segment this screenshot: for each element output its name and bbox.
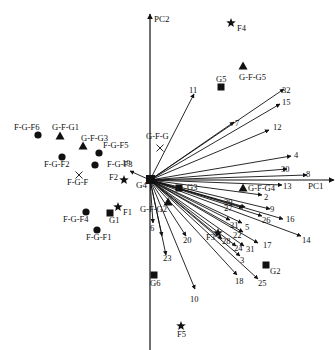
vector-label: 16 <box>286 214 295 224</box>
star-marker-icon <box>119 175 129 184</box>
sample-point: G-F-G2 <box>140 198 173 215</box>
circle-marker-icon <box>95 149 102 156</box>
sample-point: F-G-F3 <box>91 159 132 169</box>
point-label: F4 <box>237 23 247 33</box>
triangle-marker-icon <box>56 132 65 140</box>
sample-point: F-G-F <box>67 172 89 188</box>
sample-point: G-F-G1 <box>52 122 79 140</box>
sample-point: G-F-G5 <box>239 62 266 83</box>
sample-point: G6 <box>150 272 160 289</box>
point-label: F1 <box>123 207 132 217</box>
sample-point: F-G-F2 <box>44 153 70 169</box>
vector-label: 15 <box>282 97 291 107</box>
vector-label: 2 <box>264 192 268 202</box>
point-label: G6 <box>150 278 160 288</box>
vector-label: 6 <box>150 223 154 233</box>
pca-biplot: PC1PC2G4 3215712430813291626142927215221… <box>0 0 335 350</box>
vector-label: 8 <box>306 169 310 179</box>
point-label: F2 <box>109 172 118 182</box>
vector-label: 13 <box>283 181 292 191</box>
sample-point: F5 <box>176 321 186 339</box>
point-label: G-F-G5 <box>239 72 266 82</box>
point-label: F5 <box>177 329 186 339</box>
origin-label: G4 <box>136 180 147 190</box>
vector-label: 25 <box>258 278 267 288</box>
sample-point: F-G-F6 <box>14 122 42 139</box>
cross-marker-icon <box>157 145 164 152</box>
point-label: G-F-G3 <box>81 133 108 143</box>
sample-point: F2 <box>109 172 129 184</box>
sample-point: G5 <box>216 74 226 91</box>
point-label: G1 <box>109 215 119 225</box>
vector-label: 31 <box>246 244 255 254</box>
circle-marker-icon <box>34 131 41 138</box>
point-label: G5 <box>216 74 226 84</box>
star-marker-icon <box>226 18 236 27</box>
point-label: G-F-G1 <box>52 122 79 132</box>
sample-point: F-G-F4 <box>63 208 90 224</box>
star-marker-icon <box>113 202 123 211</box>
vector-label: 27 <box>224 203 233 213</box>
vector-label: 9 <box>270 204 274 214</box>
sample-point: G1 <box>107 210 120 226</box>
vector-label: 20 <box>183 235 192 245</box>
point-label: F-G-F1 <box>86 232 112 242</box>
vector-label: 4 <box>294 150 299 160</box>
point-label: F-G-F4 <box>63 214 89 224</box>
square-marker-icon <box>176 185 183 192</box>
point-label: F3 <box>206 232 215 242</box>
circle-marker-icon <box>91 161 98 168</box>
loading-vector: 18 <box>150 180 244 286</box>
sample-point: F-G-F1 <box>86 226 112 242</box>
loading-vector: 7 <box>150 118 239 180</box>
point-label: G-F-G2 <box>140 204 167 214</box>
vector-label: 22 <box>233 230 242 240</box>
vector-label: 18 <box>235 276 244 286</box>
vector-label: 32 <box>282 85 291 95</box>
vector-label: 11 <box>189 85 197 95</box>
vector-arrow <box>150 180 258 279</box>
vector-label: 14 <box>302 235 311 245</box>
pc1-axis-label: PC1 <box>308 181 324 191</box>
point-label: G2 <box>270 266 280 276</box>
point-label: G-F-G <box>146 131 169 141</box>
point-label: G-F-G4 <box>248 183 276 193</box>
pc2-axis-label: PC2 <box>154 14 170 24</box>
vector-label: 17 <box>263 240 272 250</box>
sample-point: G2 <box>263 262 281 277</box>
point-label: F-G-F2 <box>44 159 70 169</box>
vector-label: 30 <box>281 164 290 174</box>
sample-point: G-F-G4 <box>239 183 276 193</box>
square-marker-icon <box>263 262 270 269</box>
vector-label: 12 <box>273 122 282 132</box>
point-label: F-G-F <box>67 177 89 187</box>
vector-label: 5 <box>245 222 249 232</box>
point-label: F-G-F3 <box>107 159 133 169</box>
sample-point: F4 <box>226 18 247 33</box>
vector-label: 10 <box>190 294 199 304</box>
square-marker-icon <box>218 84 225 91</box>
vector-arrow <box>150 169 287 180</box>
point-label: G3 <box>187 182 197 192</box>
vector-label: 7 <box>235 118 239 128</box>
triangle-marker-icon <box>239 184 248 192</box>
triangle-marker-icon <box>239 62 248 70</box>
vector-label: 23 <box>163 253 172 263</box>
point-label: F-G-F6 <box>14 122 40 132</box>
